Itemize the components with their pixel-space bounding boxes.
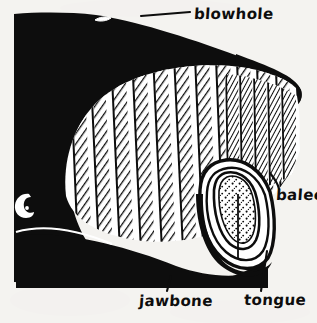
label-tongue: tongue xyxy=(243,293,306,308)
whale-anatomy-figure: blowhole baleen tongue jawbone xyxy=(0,0,317,323)
whale-illustration xyxy=(0,0,317,323)
label-baleen: baleen xyxy=(275,188,317,203)
label-blowhole: blowhole xyxy=(193,7,274,22)
label-jawbone: jawbone xyxy=(138,294,213,309)
